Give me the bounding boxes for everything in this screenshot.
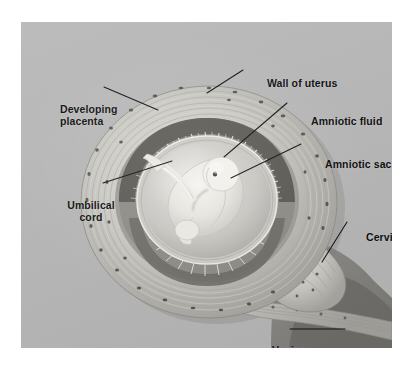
label-umbilical-cord-line2: cord <box>79 211 102 223</box>
anatomy-figure: Wall of uterus Developingplacenta Amniot… <box>0 0 411 366</box>
label-umbilical-cord-line1: Umbilical <box>67 199 115 211</box>
label-cervix: Cervix <box>366 231 392 243</box>
label-vagina: Vagina <box>272 344 306 348</box>
label-amniotic-sac: Amniotic sac <box>325 158 392 170</box>
illustration-panel: Wall of uterus Developingplacenta Amniot… <box>21 22 392 348</box>
label-developing-placenta: Developingplacenta <box>60 103 118 128</box>
label-amniotic-fluid: Amniotic fluid <box>311 115 382 127</box>
label-wall-of-uterus: Wall of uterus <box>267 77 337 89</box>
label-umbilical-cord: Umbilicalcord <box>59 199 123 224</box>
label-developing-placenta-line1: Developing <box>60 103 118 115</box>
illustration-artwork <box>21 22 392 348</box>
label-developing-placenta-line2: placenta <box>60 115 103 127</box>
